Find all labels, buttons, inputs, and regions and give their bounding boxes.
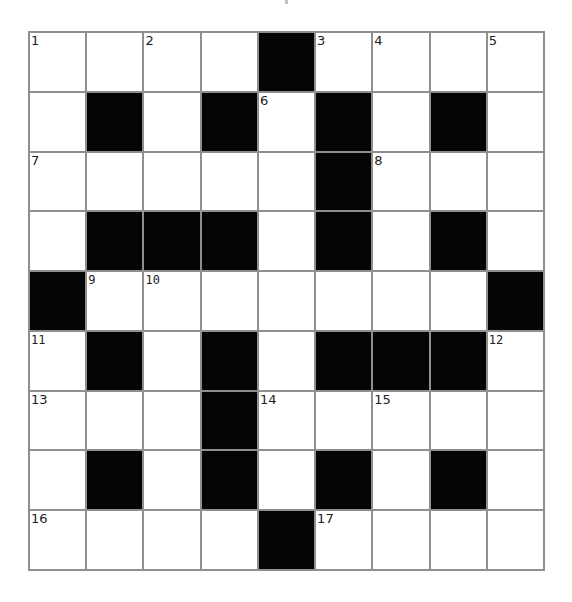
answer-cell[interactable] — [373, 93, 428, 151]
answer-cell[interactable] — [144, 153, 199, 211]
block-cell — [373, 332, 428, 390]
answer-cell[interactable] — [144, 511, 199, 569]
block-cell — [202, 212, 257, 270]
numbered-cell-2[interactable]: 2 — [144, 33, 199, 91]
block-cell — [488, 272, 543, 330]
answer-cell[interactable] — [144, 451, 199, 509]
numbered-cell-13[interactable]: 13 — [30, 392, 85, 450]
crossword-grid: 1234567891011121314151617 — [28, 31, 545, 571]
block-cell — [202, 93, 257, 151]
clue-number: 11 — [31, 333, 45, 347]
answer-cell[interactable] — [202, 33, 257, 91]
answer-cell[interactable] — [87, 33, 142, 91]
clue-number: 4 — [374, 34, 382, 48]
block-cell — [30, 272, 85, 330]
block-cell — [431, 93, 486, 151]
numbered-cell-8[interactable]: 8 — [373, 153, 428, 211]
clue-number: 13 — [31, 393, 48, 407]
numbered-cell-1[interactable]: 1 — [30, 33, 85, 91]
answer-cell[interactable] — [316, 272, 371, 330]
answer-cell[interactable] — [30, 212, 85, 270]
clue-number: 17 — [317, 512, 334, 526]
numbered-cell-4[interactable]: 4 — [373, 33, 428, 91]
answer-cell[interactable] — [431, 33, 486, 91]
numbered-cell-3[interactable]: 3 — [316, 33, 371, 91]
answer-cell[interactable] — [30, 93, 85, 151]
clue-number: 9 — [88, 273, 95, 287]
answer-cell[interactable] — [488, 451, 543, 509]
answer-cell[interactable] — [373, 451, 428, 509]
answer-cell[interactable] — [87, 392, 142, 450]
numbered-cell-11[interactable]: 11 — [30, 332, 85, 390]
block-cell — [259, 511, 314, 569]
numbered-cell-14[interactable]: 14 — [259, 392, 314, 450]
answer-cell[interactable] — [488, 392, 543, 450]
answer-cell[interactable] — [373, 212, 428, 270]
clue-number: 1 — [31, 34, 39, 48]
block-cell — [202, 451, 257, 509]
answer-cell[interactable] — [87, 153, 142, 211]
answer-cell[interactable] — [259, 272, 314, 330]
block-cell — [316, 93, 371, 151]
clue-number: 7 — [31, 154, 39, 168]
answer-cell[interactable] — [259, 153, 314, 211]
block-cell — [431, 212, 486, 270]
block-cell — [87, 212, 142, 270]
block-cell — [316, 212, 371, 270]
answer-cell[interactable] — [316, 392, 371, 450]
block-cell — [144, 212, 199, 270]
clue-number: 12 — [489, 333, 503, 347]
clue-number: 14 — [260, 393, 277, 407]
block-cell — [87, 451, 142, 509]
numbered-cell-7[interactable]: 7 — [30, 153, 85, 211]
clue-number: 8 — [374, 154, 382, 168]
block-cell — [87, 93, 142, 151]
answer-cell[interactable] — [488, 93, 543, 151]
numbered-cell-9[interactable]: 9 — [87, 272, 142, 330]
numbered-cell-6[interactable]: 6 — [259, 93, 314, 151]
clue-number: 3 — [317, 34, 325, 48]
answer-cell[interactable] — [431, 272, 486, 330]
answer-cell[interactable] — [202, 272, 257, 330]
block-cell — [316, 451, 371, 509]
answer-cell[interactable] — [144, 93, 199, 151]
answer-cell[interactable] — [488, 212, 543, 270]
numbered-cell-17[interactable]: 17 — [316, 511, 371, 569]
block-cell — [202, 392, 257, 450]
answer-cell[interactable] — [87, 511, 142, 569]
block-cell — [259, 33, 314, 91]
block-cell — [202, 332, 257, 390]
block-cell — [431, 451, 486, 509]
clue-number: 15 — [374, 393, 391, 407]
answer-cell[interactable] — [431, 511, 486, 569]
answer-cell[interactable] — [488, 153, 543, 211]
block-cell — [316, 332, 371, 390]
clue-number: 10 — [145, 273, 159, 287]
clue-number: 2 — [145, 34, 153, 48]
answer-cell[interactable] — [202, 153, 257, 211]
answer-cell[interactable] — [202, 511, 257, 569]
answer-cell[interactable] — [259, 212, 314, 270]
answer-cell[interactable] — [431, 392, 486, 450]
numbered-cell-5[interactable]: 5 — [488, 33, 543, 91]
answer-cell[interactable] — [144, 392, 199, 450]
answer-cell[interactable] — [373, 511, 428, 569]
clue-number: 6 — [260, 94, 268, 108]
numbered-cell-16[interactable]: 16 — [30, 511, 85, 569]
answer-cell[interactable] — [373, 272, 428, 330]
scan-artifact — [285, 0, 288, 4]
answer-cell[interactable] — [259, 332, 314, 390]
clue-number: 16 — [31, 512, 48, 526]
block-cell — [87, 332, 142, 390]
numbered-cell-10[interactable]: 10 — [144, 272, 199, 330]
answer-cell[interactable] — [488, 511, 543, 569]
block-cell — [431, 332, 486, 390]
answer-cell[interactable] — [431, 153, 486, 211]
block-cell — [316, 153, 371, 211]
numbered-cell-12[interactable]: 12 — [488, 332, 543, 390]
answer-cell[interactable] — [30, 451, 85, 509]
numbered-cell-15[interactable]: 15 — [373, 392, 428, 450]
clue-number: 5 — [489, 34, 497, 48]
answer-cell[interactable] — [259, 451, 314, 509]
answer-cell[interactable] — [144, 332, 199, 390]
